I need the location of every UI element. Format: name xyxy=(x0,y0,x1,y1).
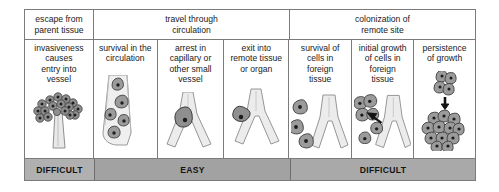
tumor-entering-vessel-icon xyxy=(27,85,91,158)
difficulty-segment-colonization-label: DIFFICULT xyxy=(360,165,406,175)
difficulty-segment-travel: EASY xyxy=(94,159,290,180)
cell-exiting-vessel-icon xyxy=(226,74,286,158)
step-initial-growth: initial growthof cells inforeigntissue xyxy=(352,40,414,158)
step-survival-foreign-tissue-label: survival ofcells inforeigntissue xyxy=(301,43,340,85)
group-header-colonization: colonization ofremote site xyxy=(290,10,475,39)
group-header-travel: travel throughcirculation xyxy=(94,10,290,39)
step-exit-vessel-label: exit intoremote tissueor organ xyxy=(230,43,282,74)
group-header-travel-label: travel throughcirculation xyxy=(165,14,218,35)
step-arrest-capillary: arrest incapillary orother smallvessel xyxy=(158,40,225,158)
cells-initial-growth-icon xyxy=(354,85,411,158)
difficulty-segment-escape-label: DIFFICULT xyxy=(36,165,82,175)
cells-in-vessel-lumen-icon xyxy=(96,64,155,158)
step-invasion: invasivenesscausesentry intovessel xyxy=(25,40,94,158)
difficulty-segment-travel-label: EASY xyxy=(180,165,205,175)
cells-surviving-foreign-tissue-icon xyxy=(291,85,349,158)
group-header-escape: escape fromparent tissue xyxy=(25,10,94,39)
metastasis-figure: escape fromparent tissue travel throughc… xyxy=(24,9,476,181)
step-invasion-label: invasivenesscausesentry intovessel xyxy=(34,43,83,85)
step-arrest-capillary-label: arrest incapillary orother smallvessel xyxy=(169,43,211,85)
step-initial-growth-label: initial growthof cells inforeigntissue xyxy=(359,43,407,85)
step-persistence-growth: persistenceof growth xyxy=(414,40,475,158)
group-header-colonization-label: colonization ofremote site xyxy=(355,14,410,35)
step-row: invasivenesscausesentry intovessel xyxy=(25,40,475,159)
step-persistence-growth-label: persistenceof growth xyxy=(423,43,467,64)
group-header-escape-label: escape fromparent tissue xyxy=(34,14,83,35)
growing-colony-icon xyxy=(416,64,473,158)
step-survival-foreign-tissue: survival ofcells inforeigntissue xyxy=(289,40,352,158)
difficulty-segment-colonization: DIFFICULT xyxy=(290,159,475,180)
difficulty-bar: DIFFICULT EASY DIFFICULT xyxy=(25,159,475,180)
step-survival-circulation-label: survival in thecirculation xyxy=(99,43,152,64)
difficulty-segment-escape: DIFFICULT xyxy=(25,159,94,180)
step-survival-circulation: survival in thecirculation xyxy=(94,40,158,158)
group-header-row: escape fromparent tissue travel throughc… xyxy=(25,10,475,40)
step-exit-vessel: exit intoremote tissueor organ xyxy=(224,40,289,158)
cell-arrested-in-capillary-icon xyxy=(160,85,222,158)
